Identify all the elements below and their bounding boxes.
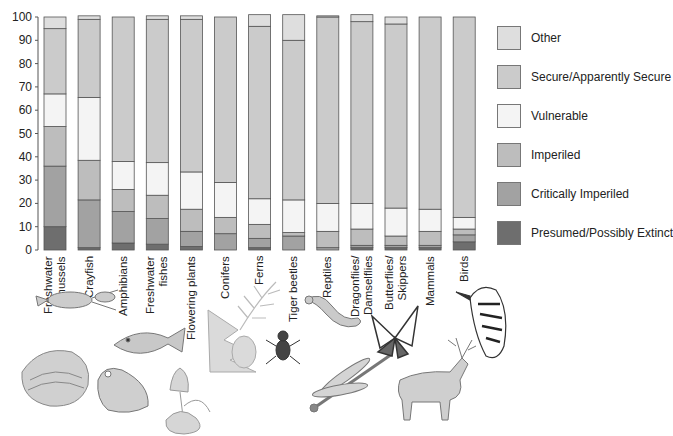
bar-butterflies-skippers <box>385 17 407 250</box>
x-tick-label: Conifers <box>219 256 232 299</box>
bar-segment <box>146 19 168 162</box>
bar-segment <box>249 15 271 27</box>
bar-segment <box>78 200 100 248</box>
bar-segment <box>453 17 475 217</box>
bar-segment <box>215 17 237 182</box>
x-tick-label: Flowering plants <box>185 256 198 340</box>
bar-reptiles <box>317 16 339 250</box>
bar-segment <box>78 97 100 160</box>
bar-segment <box>317 16 339 17</box>
bar-segment <box>180 172 202 209</box>
bar-segment <box>215 182 237 217</box>
bar-segment <box>385 208 407 236</box>
bar-segment <box>112 189 134 211</box>
bar-segment <box>385 24 407 208</box>
bar-segment <box>283 236 305 250</box>
bar-segment <box>180 231 202 246</box>
bar-birds <box>453 17 475 250</box>
bar-segment <box>453 235 475 242</box>
bar-segment <box>453 229 475 235</box>
bar-segment <box>453 217 475 229</box>
bar-segment <box>112 243 134 250</box>
legend-item: Secure/Apparently Secure <box>497 64 671 90</box>
bar-segment <box>215 234 237 250</box>
x-tick-label: Mammals <box>424 256 437 306</box>
x-tick-label: Crayfish <box>83 256 96 298</box>
bar-segment <box>180 19 202 172</box>
legend-swatch <box>497 26 521 50</box>
bar-segment <box>249 224 271 238</box>
legend-item: Imperiled <box>497 142 580 168</box>
bar-segment <box>180 247 202 250</box>
bar-segment <box>249 26 271 198</box>
stacked-bar-chart: 0102030405060708090100 Freshwater mussel… <box>0 0 673 436</box>
y-tick-label: 100 <box>2 10 32 24</box>
bar-segment <box>78 16 100 19</box>
x-tick-label: Butterflies/ Skippers <box>383 256 409 310</box>
bar-segment <box>78 160 100 200</box>
bar-segment <box>146 195 168 218</box>
bar-segment <box>215 217 237 233</box>
bar-segment <box>283 40 305 200</box>
x-tick-label: Dragonflies/ Damselflies <box>349 256 375 317</box>
bar-mammals <box>419 17 441 250</box>
bar-freshwater-mussels <box>44 17 66 250</box>
bar-segment <box>385 17 407 24</box>
bar-tiger-beetles <box>283 15 305 250</box>
bar-crayfish <box>78 16 100 250</box>
bar-segment <box>78 19 100 97</box>
x-tick-label: Freshwater fishes <box>144 256 170 314</box>
bar-segment <box>112 161 134 189</box>
bar-segment <box>249 238 271 247</box>
x-tick-label: Reptiles <box>321 256 334 298</box>
bar-segment <box>44 127 66 167</box>
bar-conifers <box>215 17 237 250</box>
bar-freshwater-fishes <box>146 16 168 250</box>
bar-segment <box>453 242 475 250</box>
legend-item: Vulnerable <box>497 103 588 129</box>
bar-dragonflies-damselflies <box>351 15 373 250</box>
bar-segment <box>283 233 305 236</box>
bar-segment <box>351 15 373 22</box>
bar-segment <box>419 209 441 231</box>
bar-segment <box>317 203 339 231</box>
bar-segment <box>44 227 66 250</box>
x-tick-label: Tiger beetles <box>287 256 300 322</box>
legend-label: Vulnerable <box>531 109 588 123</box>
legend-swatch <box>497 143 521 167</box>
legend-swatch <box>497 65 521 89</box>
bar-segment <box>283 200 305 233</box>
y-tick-label: 50 <box>2 127 32 141</box>
bar-flowering-plants <box>180 16 202 250</box>
legend-label: Secure/Apparently Secure <box>531 70 671 84</box>
bar-segment <box>180 209 202 231</box>
legend-swatch <box>497 104 521 128</box>
legend-item: Presumed/Possibly Extinct <box>497 220 673 246</box>
y-tick-label: 0 <box>2 243 32 257</box>
bar-segment <box>419 231 441 245</box>
bar-segment <box>283 15 305 41</box>
bar-segment <box>44 166 66 227</box>
bar-segment <box>146 244 168 250</box>
legend-swatch <box>497 221 521 245</box>
legend-item: Other <box>497 25 561 51</box>
bar-segment <box>44 17 66 29</box>
x-tick-label: Freshwater mussels <box>42 256 68 314</box>
bar-segment <box>419 17 441 209</box>
bar-amphibians <box>112 17 134 250</box>
bar-segment <box>44 29 66 94</box>
y-tick-label: 70 <box>2 80 32 94</box>
y-tick-label: 40 <box>2 150 32 164</box>
bar-segment <box>385 236 407 245</box>
y-tick-label: 90 <box>2 33 32 47</box>
bar-segment <box>112 212 134 243</box>
bar-segment <box>351 22 373 204</box>
y-tick-label: 10 <box>2 220 32 234</box>
bar-segment <box>351 203 373 229</box>
x-tick-label: Amphibians <box>117 256 130 316</box>
legend-item: Critically Imperiled <box>497 181 629 207</box>
x-tick-label: Birds <box>458 256 471 282</box>
bar-ferns <box>249 15 271 250</box>
bar-segment <box>249 199 271 225</box>
bar-segment <box>44 94 66 127</box>
